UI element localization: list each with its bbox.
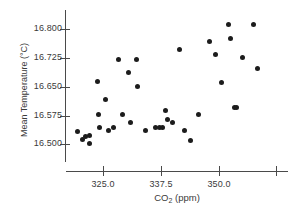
data-point [111, 125, 116, 130]
data-points-layer [0, 0, 295, 217]
data-point [97, 125, 102, 130]
scatter-plot: 16.80016.72516.65016.57516.500 325.0337.… [0, 0, 295, 217]
data-point [160, 125, 165, 130]
data-point [95, 79, 100, 84]
data-point [196, 112, 201, 117]
data-point [143, 128, 148, 133]
x-axis-title-subscript: 2 [168, 197, 172, 204]
data-point [87, 133, 92, 138]
data-point [255, 66, 260, 71]
data-point [226, 22, 231, 27]
data-point [170, 120, 175, 125]
data-point [126, 70, 131, 75]
data-point [182, 128, 187, 133]
data-point [128, 120, 133, 125]
data-point [134, 57, 139, 62]
data-point [219, 80, 224, 85]
data-point [188, 138, 193, 143]
data-point [96, 112, 101, 117]
data-point [75, 129, 80, 134]
data-point [177, 47, 182, 52]
x-axis-title-unit: (ppm) [172, 192, 199, 203]
y-axis-title: Mean Temperature (°C) [19, 25, 29, 155]
x-axis-title-main: CO [154, 192, 168, 203]
data-point [165, 117, 170, 122]
x-axis-title: CO2 (ppm) [66, 192, 288, 203]
data-point [207, 39, 212, 44]
data-point [240, 55, 245, 60]
data-point [163, 108, 168, 113]
data-point [116, 57, 121, 62]
data-point [103, 97, 108, 102]
data-point [120, 112, 125, 117]
data-point [234, 105, 239, 110]
chart-page: 16.80016.72516.65016.57516.500 325.0337.… [0, 0, 295, 217]
data-point [213, 52, 218, 57]
data-point [228, 36, 233, 41]
data-point [106, 128, 111, 133]
data-point [135, 84, 140, 89]
data-point [87, 141, 92, 146]
data-point [251, 22, 256, 27]
